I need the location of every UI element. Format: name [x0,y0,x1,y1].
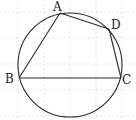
vertex-label-D: D [111,18,121,32]
geometry-figure: ABCD [0,0,136,120]
vertex-label-C: C [122,73,131,87]
vertex-label-B: B [5,72,14,86]
vertex-label-A: A [52,0,62,14]
segment-DC [109,29,121,78]
